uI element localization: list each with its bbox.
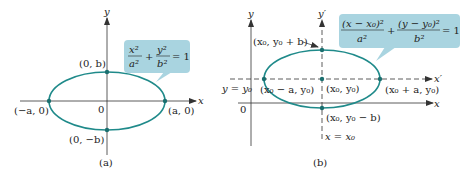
svg-text:a²: a² — [129, 58, 139, 69]
origin-label-b: 0 — [240, 104, 246, 115]
axis-label-y-b: y — [247, 8, 254, 19]
point-left-a — [47, 99, 51, 103]
label-left-a: (−a, 0) — [14, 105, 49, 116]
point-left-b — [262, 77, 266, 81]
figure-a: y x 0 (0, b) (0, −b) (−a, 0) (a, 0) (a) … — [14, 6, 204, 168]
point-top-a — [105, 70, 109, 74]
svg-text:= 1: = 1 — [442, 25, 460, 36]
axis-label-y-prime-b: y′ — [317, 8, 327, 19]
line-label-x-b: x = x₀ — [325, 131, 355, 142]
label-bottom-a: (0, −b) — [69, 134, 104, 145]
caption-a: (a) — [99, 157, 113, 168]
point-top-b — [320, 48, 324, 52]
caption-b: (b) — [313, 157, 327, 168]
ellipse-diagram: y x 0 (0, b) (0, −b) (−a, 0) (a, 0) (a) … — [0, 0, 462, 174]
svg-text:y²: y² — [156, 44, 167, 55]
label-top-a: (0, b) — [79, 58, 106, 69]
point-bottom-b — [320, 106, 324, 110]
svg-text:(x − x₀)²: (x − x₀)² — [342, 18, 384, 29]
axis-label-y-a: y — [103, 6, 110, 17]
axis-label-x-a: x — [198, 95, 204, 106]
svg-text:+: + — [145, 51, 153, 62]
origin-label-a: 0 — [98, 104, 104, 115]
svg-text:+: + — [387, 25, 395, 36]
point-bottom-a — [105, 128, 109, 132]
svg-text:a²: a² — [357, 33, 367, 44]
axis-label-x-b: x — [434, 98, 440, 109]
svg-text:x²: x² — [129, 44, 139, 55]
svg-text:b²: b² — [414, 33, 424, 44]
point-right-b — [378, 77, 382, 81]
label-bottom-b: (x₀, y₀ − b) — [326, 112, 381, 123]
line-label-y-b: y = y₀ — [221, 83, 252, 94]
label-right-b: (x₀ + a, y₀) — [385, 84, 439, 95]
point-center-b — [320, 77, 324, 81]
axis-label-x-prime-b: x′ — [434, 73, 443, 84]
label-center-b: (x₀, y₀) — [326, 83, 360, 94]
figure-b: y y′ x′ x 0 y = y₀ x = x₀ (x₀, y₀ + b) (… — [221, 8, 460, 168]
svg-text:(y − y₀)²: (y − y₀)² — [398, 18, 440, 29]
label-right-a: (a, 0) — [168, 105, 195, 116]
point-right-a — [163, 99, 167, 103]
svg-text:= 1: = 1 — [172, 51, 190, 62]
svg-text:b²: b² — [157, 58, 167, 69]
label-top-b: (x₀, y₀ + b) — [253, 36, 308, 47]
label-left-b: (x₀ − a, y₀) — [260, 84, 314, 95]
